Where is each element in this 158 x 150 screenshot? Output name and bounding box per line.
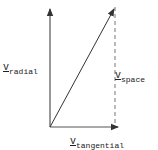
label-v-space: vspace <box>115 66 145 82</box>
label-v-tangential: vtangential <box>70 132 124 148</box>
label-v-space-subscript: space <box>121 75 145 84</box>
space-vector-arrow <box>50 9 114 127</box>
label-v-tangential-subscript: tangential <box>76 141 124 150</box>
label-v-radial: vradial <box>3 58 38 74</box>
label-v-radial-subscript: radial <box>9 67 38 76</box>
velocity-vector-diagram: vradial vspace vtangential <box>0 0 158 150</box>
